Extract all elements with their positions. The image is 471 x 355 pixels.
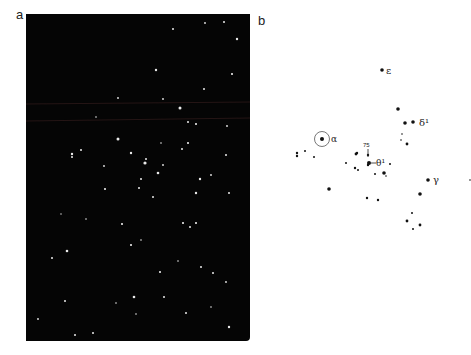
label-gamma: γ: [433, 174, 439, 185]
label-alpha: α: [331, 134, 337, 144]
star-field-photo: [26, 14, 250, 341]
label-epsilon: ε: [386, 65, 391, 76]
label-theta1: θ¹: [376, 158, 385, 168]
panel-a-label: a: [16, 7, 23, 22]
star-field-stars: [26, 14, 250, 341]
label-delta1: δ¹: [419, 117, 429, 128]
star-chart-plot: ε δ¹ α 75 θ¹ γ: [256, 0, 471, 355]
label-75: 75: [363, 142, 370, 148]
star-chart: ε δ¹ α 75 θ¹ γ: [256, 0, 471, 355]
